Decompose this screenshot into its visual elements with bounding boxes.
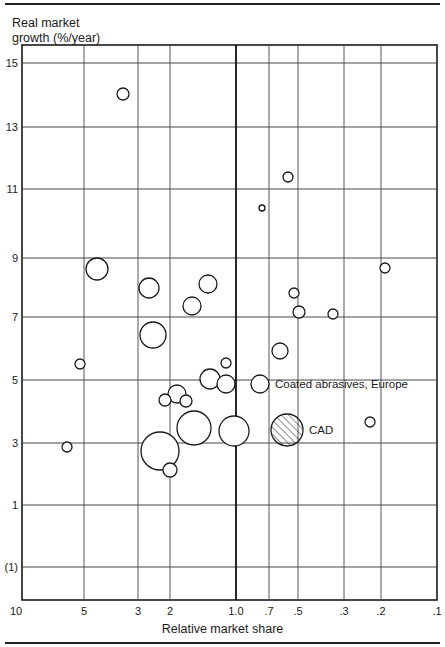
x-tick-label: .7	[264, 605, 273, 617]
bubble	[117, 88, 129, 100]
bubble-annotation: Coated abrasives, Europe	[275, 378, 408, 390]
bubble	[217, 375, 235, 393]
bubble	[62, 442, 72, 452]
bubble	[221, 358, 231, 368]
bubble	[259, 205, 265, 211]
bubble	[177, 411, 211, 445]
y-tick-label: 11	[7, 183, 18, 195]
x-tick-label: 10	[10, 605, 22, 617]
y-tick-label: 9	[12, 252, 18, 264]
x-tick-label: .1	[432, 605, 441, 617]
bubble	[251, 375, 269, 393]
bubble	[199, 275, 217, 293]
y-tick-label: 7	[12, 311, 18, 323]
bubble	[328, 309, 338, 319]
x-tick-label: .2	[376, 605, 385, 617]
x-axis-title: Relative market share	[0, 622, 445, 636]
y-tick-label: 5	[12, 374, 18, 386]
axis-ticks: 15131197531(1)105321.0.7.5.3.2.1	[5, 57, 442, 617]
x-tick-label: 1.0	[228, 605, 243, 617]
y-tick-label: 1	[12, 499, 18, 511]
x-tick-label: 5	[81, 605, 87, 617]
bubble	[183, 297, 201, 315]
bubble	[272, 343, 288, 359]
bubble	[293, 306, 305, 318]
bubble	[86, 258, 108, 280]
bubble	[75, 359, 85, 369]
bubble-chart: 15131197531(1)105321.0.7.5.3.2.1 Coated …	[0, 0, 445, 647]
bubble	[180, 395, 192, 407]
x-tick-label: 3	[135, 605, 141, 617]
bubble	[219, 416, 249, 446]
y-tick-label: 15	[6, 57, 18, 69]
cad-bubble	[271, 414, 303, 446]
y-tick-label: (1)	[5, 561, 18, 573]
x-tick-label: .5	[293, 605, 302, 617]
bubble-annotation: CAD	[309, 424, 333, 436]
bubble	[139, 278, 159, 298]
bottom-rule	[5, 642, 440, 644]
bubble	[163, 463, 177, 477]
y-tick-label: 3	[12, 437, 18, 449]
y-tick-label: 13	[6, 121, 18, 133]
bubble	[289, 288, 299, 298]
bubble	[365, 417, 375, 427]
x-tick-label: 2	[167, 605, 173, 617]
bubble	[140, 322, 166, 348]
bubble	[380, 263, 390, 273]
grid-lines	[22, 45, 437, 600]
bubbles	[62, 88, 390, 477]
bubble	[283, 172, 293, 182]
bubble	[159, 394, 171, 406]
x-tick-label: .3	[339, 605, 348, 617]
